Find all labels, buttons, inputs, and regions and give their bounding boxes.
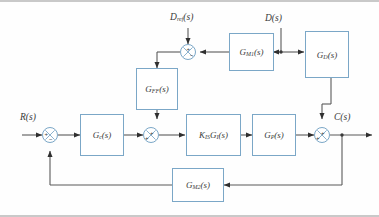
feedforward-block[interactable]: GFF(s) bbox=[136, 68, 178, 110]
error-junction-sign-bottom: − bbox=[49, 136, 53, 142]
output-measurement-block-label: GM2(s) bbox=[186, 180, 210, 190]
process-block[interactable]: GP(s) bbox=[252, 114, 296, 156]
disturbance-ref-signal-label: Dref(s) bbox=[170, 12, 193, 22]
disturbance-dynamics-block[interactable]: GD(s) bbox=[305, 31, 349, 78]
top-junction-sign-right: − bbox=[190, 52, 194, 58]
feedforward-summing-junction[interactable]: + + bbox=[143, 127, 159, 143]
disturbance-signal-label: D(s) bbox=[265, 13, 282, 23]
controller-block-label: Gc(s) bbox=[93, 130, 112, 140]
error-summing-junction[interactable]: + − bbox=[42, 127, 58, 143]
out-junction-sign-top: + bbox=[321, 130, 325, 136]
output-signal-label: C(s) bbox=[334, 112, 350, 122]
ff-junction-sign-top: + bbox=[150, 130, 154, 136]
disturbance-split-node bbox=[279, 50, 282, 53]
dref-tail: (s) bbox=[183, 12, 193, 22]
actuator-block-label: KISGI(s) bbox=[199, 130, 228, 140]
reference-signal-label: R(s) bbox=[20, 112, 36, 122]
feedforward-block-label: GFF(s) bbox=[145, 84, 168, 94]
controller-block[interactable]: Gc(s) bbox=[80, 114, 124, 156]
actuator-block[interactable]: KISGI(s) bbox=[186, 114, 241, 156]
error-junction-sign-left: + bbox=[45, 131, 49, 137]
disturbance-measurement-block[interactable]: GM1(s) bbox=[229, 33, 274, 71]
disturbance-measurement-block-label: GM1(s) bbox=[240, 47, 264, 57]
out-junction-sign-left: + bbox=[316, 135, 320, 141]
output-summing-junction[interactable]: + + bbox=[314, 127, 330, 143]
process-block-label: GP(s) bbox=[264, 130, 284, 140]
dref-main: D bbox=[170, 12, 177, 22]
ff-junction-sign-left: + bbox=[145, 135, 149, 141]
disturbance-dynamics-block-label: GD(s) bbox=[317, 50, 337, 60]
disturbance-ref-summing-junction[interactable]: + − bbox=[180, 44, 196, 60]
output-split-node bbox=[340, 133, 343, 136]
diagram-frame: R(s) C(s) D(s) Dref(s) GFF(s) Gc(s) KISG… bbox=[0, 0, 379, 217]
output-measurement-block[interactable]: GM2(s) bbox=[172, 168, 224, 202]
